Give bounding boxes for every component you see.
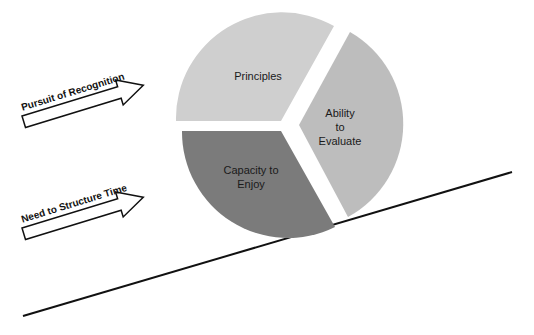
arrow-pursuit-of-recognition: Pursuit of Recognition [18,66,147,134]
segment-label-ability-line2: to [335,121,344,133]
segment-label-capacity-line2: Enjoy [237,178,265,190]
arrow-need-to-structure-time: Need to Structure Time [18,178,147,246]
diagram-canvas: Principles Ability to Evaluate Capacity … [0,0,534,335]
segment-label-ability-line1: Ability [325,107,355,119]
segment-label-ability-line3: Evaluate [319,135,362,147]
segment-label-principles: Principles [234,70,282,82]
segment-label-capacity-line1: Capacity to [223,164,278,176]
pie-chart: Principles Ability to Evaluate Capacity … [176,12,403,238]
